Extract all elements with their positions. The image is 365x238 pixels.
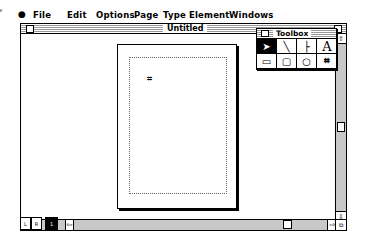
document-page[interactable]: ⌗ (117, 44, 237, 209)
menu-windows[interactable]: Windows (229, 10, 274, 20)
menu-file[interactable]: File (33, 10, 51, 20)
menu-bar-tick: ʳ (0, 8, 4, 16)
menu-options[interactable]: Options (96, 10, 135, 20)
horizontal-scroll-thumb[interactable] (283, 220, 292, 229)
scroll-up-arrow-icon[interactable]: ⇧ (336, 34, 346, 44)
rounded-rectangle-tool-icon[interactable]: ▢ (277, 54, 297, 69)
grow-box-icon[interactable]: ⧉ (335, 219, 346, 230)
diagonal-line-tool-icon[interactable]: ╲ (277, 39, 297, 54)
oval-tool-icon[interactable]: ○ (297, 54, 317, 69)
right-master-page-button[interactable]: R (31, 217, 42, 230)
left-master-page-button[interactable]: L (20, 217, 31, 230)
text-tool-icon[interactable]: A (317, 39, 337, 54)
toolbox-close-box[interactable] (261, 30, 269, 37)
rectangle-tool-icon[interactable]: ▭ (257, 54, 277, 69)
scroll-left-arrow-icon[interactable]: ⇦ (65, 220, 74, 230)
menu-edit[interactable]: Edit (67, 10, 87, 20)
apple-menu-icon[interactable]: ● (18, 9, 26, 19)
menu-type[interactable]: Type (163, 10, 186, 20)
crop-tool-icon[interactable]: ⌗ (317, 54, 337, 69)
toolbox-palette: Toolbox ➤ ╲ ├ A ▭ ▢ ○ ⌗ (256, 28, 337, 70)
menu-bar: ʳ ● File Edit Options Page Type Element … (0, 8, 365, 22)
insertion-cursor-icon: ⌗ (147, 75, 152, 84)
pointer-tool-icon[interactable]: ➤ (257, 39, 277, 54)
menu-page[interactable]: Page (134, 10, 158, 20)
menu-element[interactable]: Element (189, 10, 230, 20)
horizontal-scrollbar[interactable]: L R 1 ⇦ ⇨ (21, 219, 337, 230)
vertical-scroll-thumb[interactable] (337, 122, 345, 132)
page-1-button[interactable]: 1 (45, 217, 58, 230)
toolbox-title: Toolbox (273, 29, 311, 38)
close-box[interactable] (26, 25, 34, 33)
page-margin-guides (129, 57, 227, 194)
toolbox-title-bar[interactable]: Toolbox (257, 29, 336, 39)
window-title: Untitled (163, 24, 207, 33)
orthogonal-line-tool-icon[interactable]: ├ (297, 39, 317, 54)
